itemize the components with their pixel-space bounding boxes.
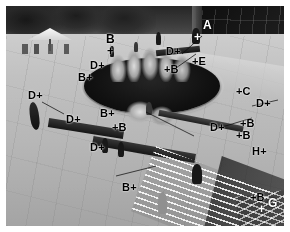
annotation-marker-d-m08: D+: [90, 60, 105, 71]
annotation-marker-d-m10: D+: [28, 90, 43, 101]
annotation-marker-h-m20: H+: [252, 146, 267, 157]
annotation-marker-b-m21: B+: [122, 182, 137, 193]
annotation-marker-a-m01: A: [203, 20, 212, 31]
annotation-marker-b-m04: +: [107, 46, 114, 57]
annotation-marker-b-m09: B+: [78, 72, 93, 83]
annotation-marker-e-m06: +E: [192, 56, 206, 67]
annotation-marker-a-m02: +: [194, 32, 201, 43]
annotation-marker-c-m11: +C: [236, 86, 251, 97]
annotation-overlay: A+B+D++E+BD+B+D++CD+B+D++B+BD++BD+H+B++B…: [6, 6, 284, 226]
annotation-marker-b-m13: B+: [100, 108, 115, 119]
screenshot-root: A+B+D++E+BD+B+D++CD+B+D++B+BD++BD+H+B++B…: [0, 0, 290, 232]
annotation-marker-b-m16: +B: [240, 118, 255, 129]
annotation-marker-g-m23: G: [268, 198, 278, 209]
annotation-marker-d-m12: D+: [256, 98, 271, 109]
annotation-marker-d-m05: D+: [166, 46, 181, 57]
annotation-marker-d-m17: D+: [210, 122, 225, 133]
annotation-marker-b-m18: +B: [236, 130, 251, 141]
annotation-marker-b-m07: +B: [164, 64, 179, 75]
photograph: A+B+D++E+BD+B+D++CD+B+D++B+BD++BD+H+B++B…: [6, 6, 284, 226]
annotation-marker-g-m24: +: [258, 204, 265, 215]
annotation-marker-b-m15: +B: [112, 122, 127, 133]
annotation-marker-d-m14: D+: [66, 114, 81, 125]
annotation-marker-d-m19: D+: [90, 142, 105, 153]
